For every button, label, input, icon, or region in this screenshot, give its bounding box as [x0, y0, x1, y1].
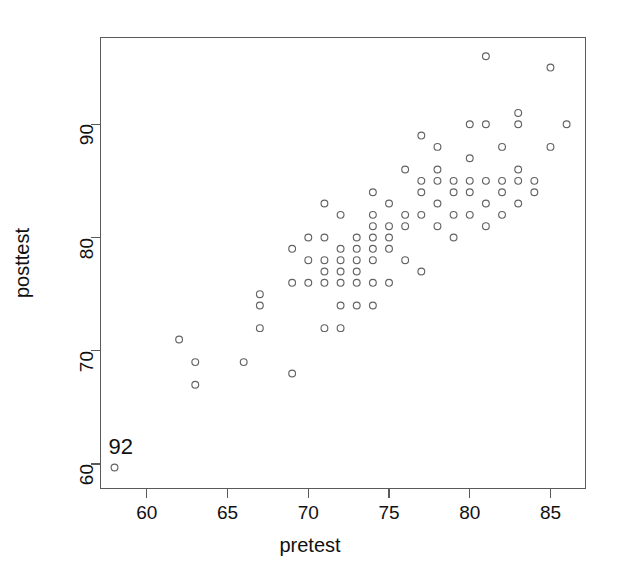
data-point	[515, 121, 522, 128]
data-point	[321, 234, 328, 241]
data-point	[418, 132, 425, 139]
data-point	[418, 211, 425, 218]
data-point	[256, 325, 263, 332]
data-points-layer	[100, 37, 586, 489]
data-point	[337, 257, 344, 264]
y-axis-title: posttest	[11, 228, 34, 298]
data-point	[256, 291, 263, 298]
y-axis-tick-label: 60	[77, 464, 96, 485]
data-point	[450, 234, 457, 241]
data-point	[482, 177, 489, 184]
data-point	[353, 302, 360, 309]
x-axis-tick-label: 70	[298, 503, 319, 522]
data-point	[450, 177, 457, 184]
y-axis-tick-label: 80	[77, 238, 96, 259]
data-point	[337, 211, 344, 218]
data-point	[369, 189, 376, 196]
data-point	[563, 121, 570, 128]
data-point	[418, 268, 425, 275]
x-axis-tick	[469, 489, 470, 498]
data-point	[531, 177, 538, 184]
data-point	[321, 268, 328, 275]
data-point	[305, 279, 312, 286]
series-students	[111, 53, 570, 471]
x-axis-tick	[388, 489, 389, 498]
scatterplot-figure: 92 60657075808560708090 pretest posttest	[0, 0, 620, 578]
data-point	[192, 381, 199, 388]
data-point	[466, 211, 473, 218]
data-point	[434, 177, 441, 184]
data-point	[192, 359, 199, 366]
data-point	[450, 211, 457, 218]
data-point	[450, 189, 457, 196]
data-point	[499, 211, 506, 218]
data-point	[402, 211, 409, 218]
data-point	[466, 189, 473, 196]
data-point	[402, 257, 409, 264]
x-axis-tick-label: 65	[217, 503, 238, 522]
data-point	[289, 279, 296, 286]
data-point	[499, 143, 506, 150]
data-point	[321, 200, 328, 207]
x-axis-tick	[146, 489, 147, 498]
data-point	[353, 268, 360, 275]
data-point	[353, 257, 360, 264]
data-point	[369, 279, 376, 286]
data-point	[482, 200, 489, 207]
data-point	[547, 64, 554, 71]
x-axis-tick-label: 60	[136, 503, 157, 522]
data-point	[240, 359, 247, 366]
data-point	[337, 325, 344, 332]
data-point	[482, 53, 489, 60]
data-point	[321, 325, 328, 332]
data-point	[256, 302, 263, 309]
data-point	[386, 200, 393, 207]
data-point	[369, 211, 376, 218]
data-point	[482, 121, 489, 128]
x-axis-tick-label: 75	[378, 503, 399, 522]
data-point	[402, 166, 409, 173]
data-point	[547, 143, 554, 150]
data-point	[418, 189, 425, 196]
data-point	[369, 223, 376, 230]
data-point	[353, 279, 360, 286]
data-point	[353, 234, 360, 241]
data-point	[305, 257, 312, 264]
data-point	[386, 223, 393, 230]
data-point	[466, 121, 473, 128]
data-point	[337, 268, 344, 275]
data-point	[515, 110, 522, 117]
data-point	[466, 155, 473, 162]
data-point	[434, 200, 441, 207]
data-point	[289, 370, 296, 377]
data-point	[369, 257, 376, 264]
data-point	[353, 245, 360, 252]
x-axis-tick-label: 80	[459, 503, 480, 522]
x-axis-title: pretest	[0, 534, 620, 557]
data-point	[369, 234, 376, 241]
data-point	[386, 245, 393, 252]
data-point	[531, 189, 538, 196]
data-point	[337, 279, 344, 286]
data-point	[499, 177, 506, 184]
x-axis-tick	[308, 489, 309, 498]
data-point	[321, 257, 328, 264]
data-point	[434, 166, 441, 173]
data-point	[369, 302, 376, 309]
y-axis-tick-label: 90	[77, 124, 96, 145]
data-point	[337, 302, 344, 309]
outlier-case-label: 92	[109, 434, 133, 460]
x-axis-tick	[227, 489, 228, 498]
x-axis-tick-label: 85	[540, 503, 561, 522]
data-point	[515, 166, 522, 173]
data-point	[111, 464, 118, 471]
data-point	[515, 177, 522, 184]
data-point	[418, 177, 425, 184]
data-point	[321, 279, 328, 286]
data-point	[466, 177, 473, 184]
y-axis-tick-label: 70	[77, 351, 96, 372]
data-point	[386, 234, 393, 241]
data-point	[402, 223, 409, 230]
x-axis-tick	[550, 489, 551, 498]
data-point	[499, 189, 506, 196]
